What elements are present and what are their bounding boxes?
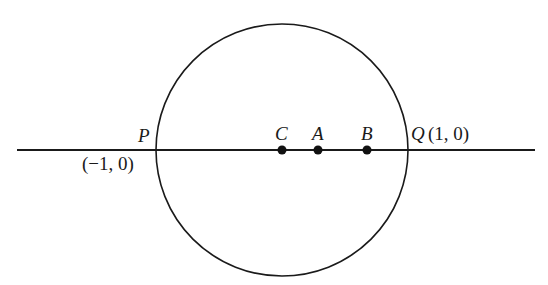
point-q-label: Q (411, 123, 425, 144)
point-a-label: A (310, 123, 324, 144)
point-b-dot (363, 146, 372, 155)
circle-diagram: C A B P (−1, 0) Q (1, 0) (0, 0, 548, 285)
point-b-label: B (361, 123, 373, 144)
point-c-label: C (275, 123, 288, 144)
point-p-coords: (−1, 0) (82, 153, 134, 175)
point-a-dot (314, 146, 323, 155)
point-p-label: P (137, 125, 150, 146)
point-c-dot (278, 146, 287, 155)
point-q-coords: (1, 0) (428, 123, 469, 145)
